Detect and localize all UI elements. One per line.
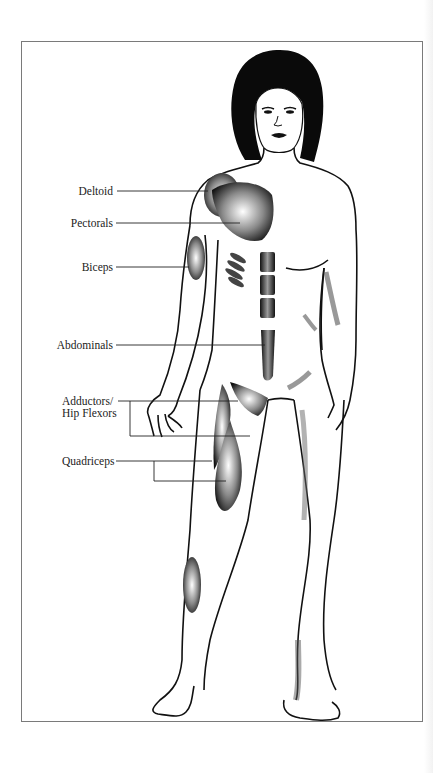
- serratus-muscle: [224, 251, 247, 289]
- body-illustration: [0, 0, 433, 773]
- label-adductors: Adductors/: [62, 395, 113, 407]
- label-deltoid: Deltoid: [60, 185, 113, 197]
- label-biceps: Biceps: [60, 261, 113, 273]
- hip-flexor-muscle: [230, 382, 268, 416]
- label-pectorals: Pectorals: [50, 217, 113, 229]
- biceps-muscle: [187, 236, 205, 280]
- calf-muscle: [183, 557, 201, 613]
- quadriceps-leader: [116, 461, 226, 481]
- face: [256, 88, 303, 153]
- label-abdominals: Abdominals: [40, 339, 113, 351]
- abdominal-muscle: [260, 252, 275, 381]
- pectoral-muscle: [212, 182, 274, 241]
- label-hip-flexors: Hip Flexors: [62, 407, 117, 419]
- label-quadriceps: Quadriceps: [62, 455, 114, 467]
